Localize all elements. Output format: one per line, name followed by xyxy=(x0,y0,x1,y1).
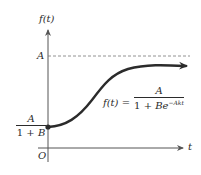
initial-value-dot xyxy=(45,124,50,129)
formula-lhs: f(t) = xyxy=(103,98,130,108)
logistic-curve-figure: f(t) A A 1 + B O t f(t) = A 1 + Be−Akt xyxy=(0,0,201,175)
formula-exponent: −Akt xyxy=(168,99,183,106)
formula-numerator: A xyxy=(134,86,184,97)
asymptote-label: A xyxy=(37,51,44,61)
x-axis-label: t xyxy=(188,142,192,152)
initial-value-label: A 1 + B xyxy=(16,114,46,138)
initial-value-denominator: 1 + B xyxy=(16,126,46,138)
origin-label: O xyxy=(38,151,46,161)
formula-fraction: A 1 + Be−Akt xyxy=(134,86,184,111)
y-axis-label: f(t) xyxy=(39,14,55,24)
formula-denominator: 1 + Be−Akt xyxy=(134,98,184,111)
initial-value-numerator: A xyxy=(16,114,46,125)
